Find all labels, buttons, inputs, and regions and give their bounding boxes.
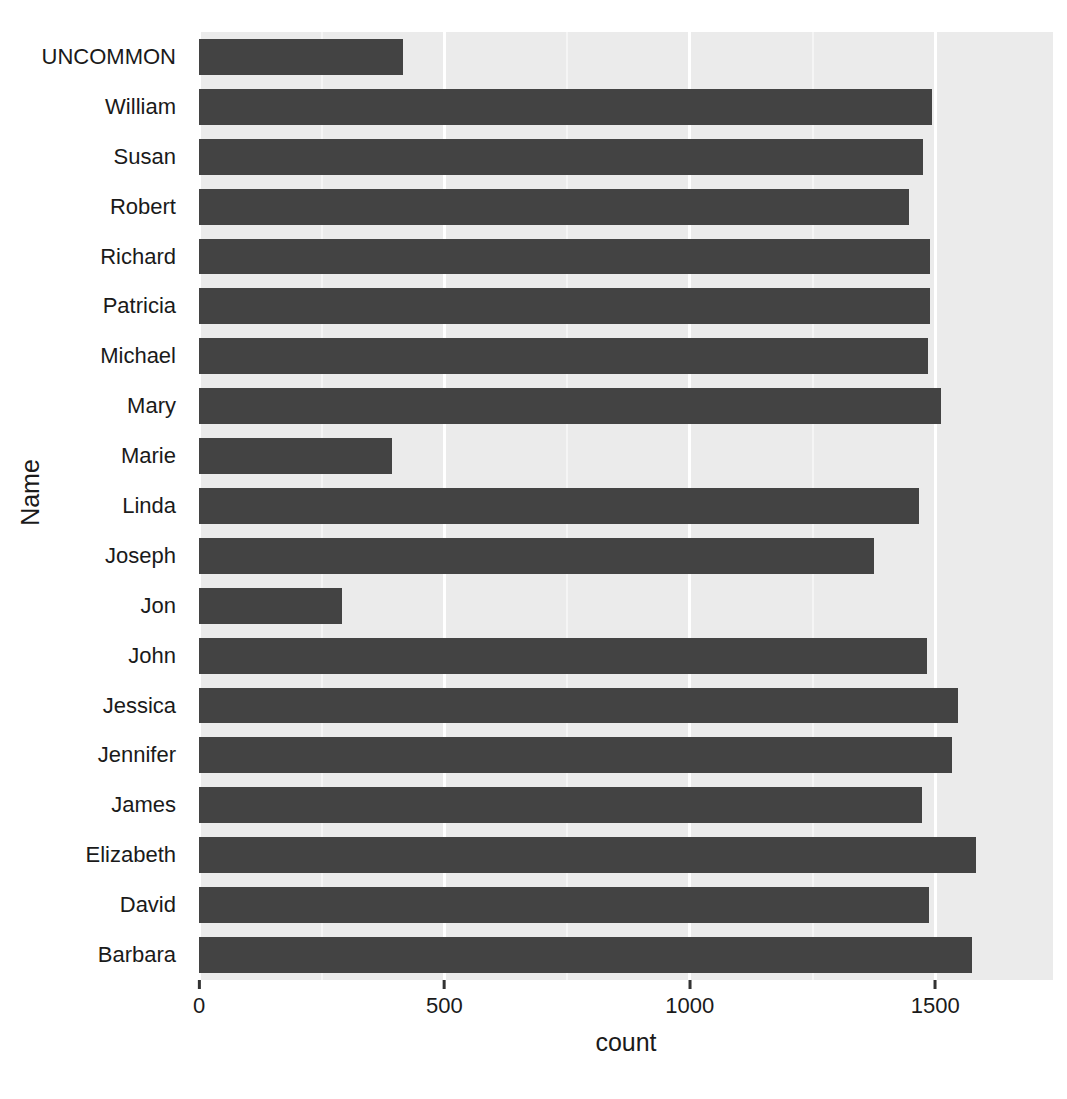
bar-jessica: [199, 688, 958, 724]
bar-chart-figure: Name UNCOMMONWilliamSusanRobertRichardPa…: [0, 0, 1067, 1099]
bar-slot: [199, 780, 1053, 830]
y-axis-tick-mary: Mary: [40, 381, 190, 431]
x-axis-tick-mark: [443, 980, 446, 989]
y-axis-tick-label: David: [120, 892, 190, 918]
y-axis-tick-john: John: [40, 631, 190, 681]
y-axis-tick-elizabeth: Elizabeth: [40, 830, 190, 880]
y-axis-tick-label: William: [105, 94, 190, 120]
y-axis-tick-robert: Robert: [40, 182, 190, 232]
bar-slot: [199, 381, 1053, 431]
bar-james: [199, 787, 922, 823]
y-axis-tick-labels: UNCOMMONWilliamSusanRobertRichardPatrici…: [40, 32, 190, 980]
y-axis-tick-label: Jon: [141, 593, 190, 619]
bar-marie: [199, 438, 392, 474]
bar-slot: [199, 681, 1053, 731]
y-axis-tick-label: Richard: [100, 244, 190, 270]
y-axis-tick-jennifer: Jennifer: [40, 730, 190, 780]
bar-slot: [199, 581, 1053, 631]
bar-barbara: [199, 937, 972, 973]
bar-jennifer: [199, 737, 952, 773]
x-axis-tick-500: 500: [426, 980, 463, 1019]
y-axis-tick-richard: Richard: [40, 232, 190, 282]
bar-patricia: [199, 288, 930, 324]
y-axis-tick-linda: Linda: [40, 481, 190, 531]
bar-robert: [199, 189, 909, 225]
x-axis-tick-1500: 1500: [911, 980, 960, 1019]
x-axis-tick-1000: 1000: [665, 980, 714, 1019]
bar-slot: [199, 631, 1053, 681]
bar-slot: [199, 82, 1053, 132]
y-axis-tick-james: James: [40, 780, 190, 830]
x-axis-tick-0: 0: [193, 980, 205, 1019]
bar-richard: [199, 239, 930, 275]
x-axis-tick-label: 1500: [911, 993, 960, 1019]
y-axis-tick-label: Marie: [121, 443, 190, 469]
x-axis-tick-label: 500: [426, 993, 463, 1019]
bar-jon: [199, 588, 342, 624]
y-axis-tick-label: Linda: [122, 493, 190, 519]
y-axis-tick-marie: Marie: [40, 431, 190, 481]
plot-panel: [199, 32, 1053, 980]
y-axis-tick-label: Patricia: [103, 293, 190, 319]
y-axis-tick-david: David: [40, 880, 190, 930]
x-axis-tick-mark: [688, 980, 691, 989]
bar-william: [199, 89, 932, 125]
bar-slot: [199, 930, 1053, 980]
y-axis-tick-patricia: Patricia: [40, 281, 190, 331]
bar-slot: [199, 232, 1053, 282]
bar-michael: [199, 338, 928, 374]
y-axis-tick-label: Elizabeth: [85, 842, 190, 868]
bar-david: [199, 887, 929, 923]
y-axis-tick-uncommon: UNCOMMON: [40, 32, 190, 82]
bar-uncommon: [199, 39, 403, 75]
y-axis-tick-label: UNCOMMON: [42, 44, 190, 70]
y-axis-tick-label: Robert: [110, 194, 190, 220]
bar-mary: [199, 388, 941, 424]
bar-slot: [199, 331, 1053, 381]
y-axis-tick-susan: Susan: [40, 132, 190, 182]
x-axis-title: count: [199, 1028, 1053, 1057]
y-axis-tick-label: Joseph: [105, 543, 190, 569]
y-axis-tick-michael: Michael: [40, 331, 190, 381]
y-axis-tick-label: Barbara: [98, 942, 190, 968]
bar-series: [199, 32, 1053, 980]
y-axis-tick-joseph: Joseph: [40, 531, 190, 581]
bar-susan: [199, 139, 923, 175]
bar-slot: [199, 32, 1053, 82]
bar-slot: [199, 531, 1053, 581]
x-axis-tick-label: 0: [193, 993, 205, 1019]
bar-joseph: [199, 538, 874, 574]
bar-slot: [199, 182, 1053, 232]
y-axis-tick-label: John: [128, 643, 190, 669]
y-axis-tick-label: Michael: [100, 343, 190, 369]
bar-slot: [199, 830, 1053, 880]
y-axis-tick-label: Jessica: [103, 693, 190, 719]
x-axis-tick-mark: [198, 980, 201, 989]
bar-slot: [199, 730, 1053, 780]
y-axis-tick-barbara: Barbara: [40, 930, 190, 980]
y-axis-tick-label: James: [111, 792, 190, 818]
x-axis-tick-mark: [934, 980, 937, 989]
y-axis-tick-label: Susan: [114, 144, 190, 170]
y-axis-tick-william: William: [40, 82, 190, 132]
bar-john: [199, 638, 927, 674]
bar-linda: [199, 488, 919, 524]
bar-slot: [199, 431, 1053, 481]
bar-slot: [199, 132, 1053, 182]
y-axis-tick-label: Jennifer: [98, 742, 190, 768]
y-axis-tick-jessica: Jessica: [40, 681, 190, 731]
y-axis-tick-label: Mary: [127, 393, 190, 419]
x-axis: 050010001500: [199, 980, 1053, 1026]
x-axis-tick-label: 1000: [665, 993, 714, 1019]
y-axis-tick-jon: Jon: [40, 581, 190, 631]
bar-slot: [199, 481, 1053, 531]
bar-slot: [199, 281, 1053, 331]
bar-slot: [199, 880, 1053, 930]
bar-elizabeth: [199, 837, 976, 873]
